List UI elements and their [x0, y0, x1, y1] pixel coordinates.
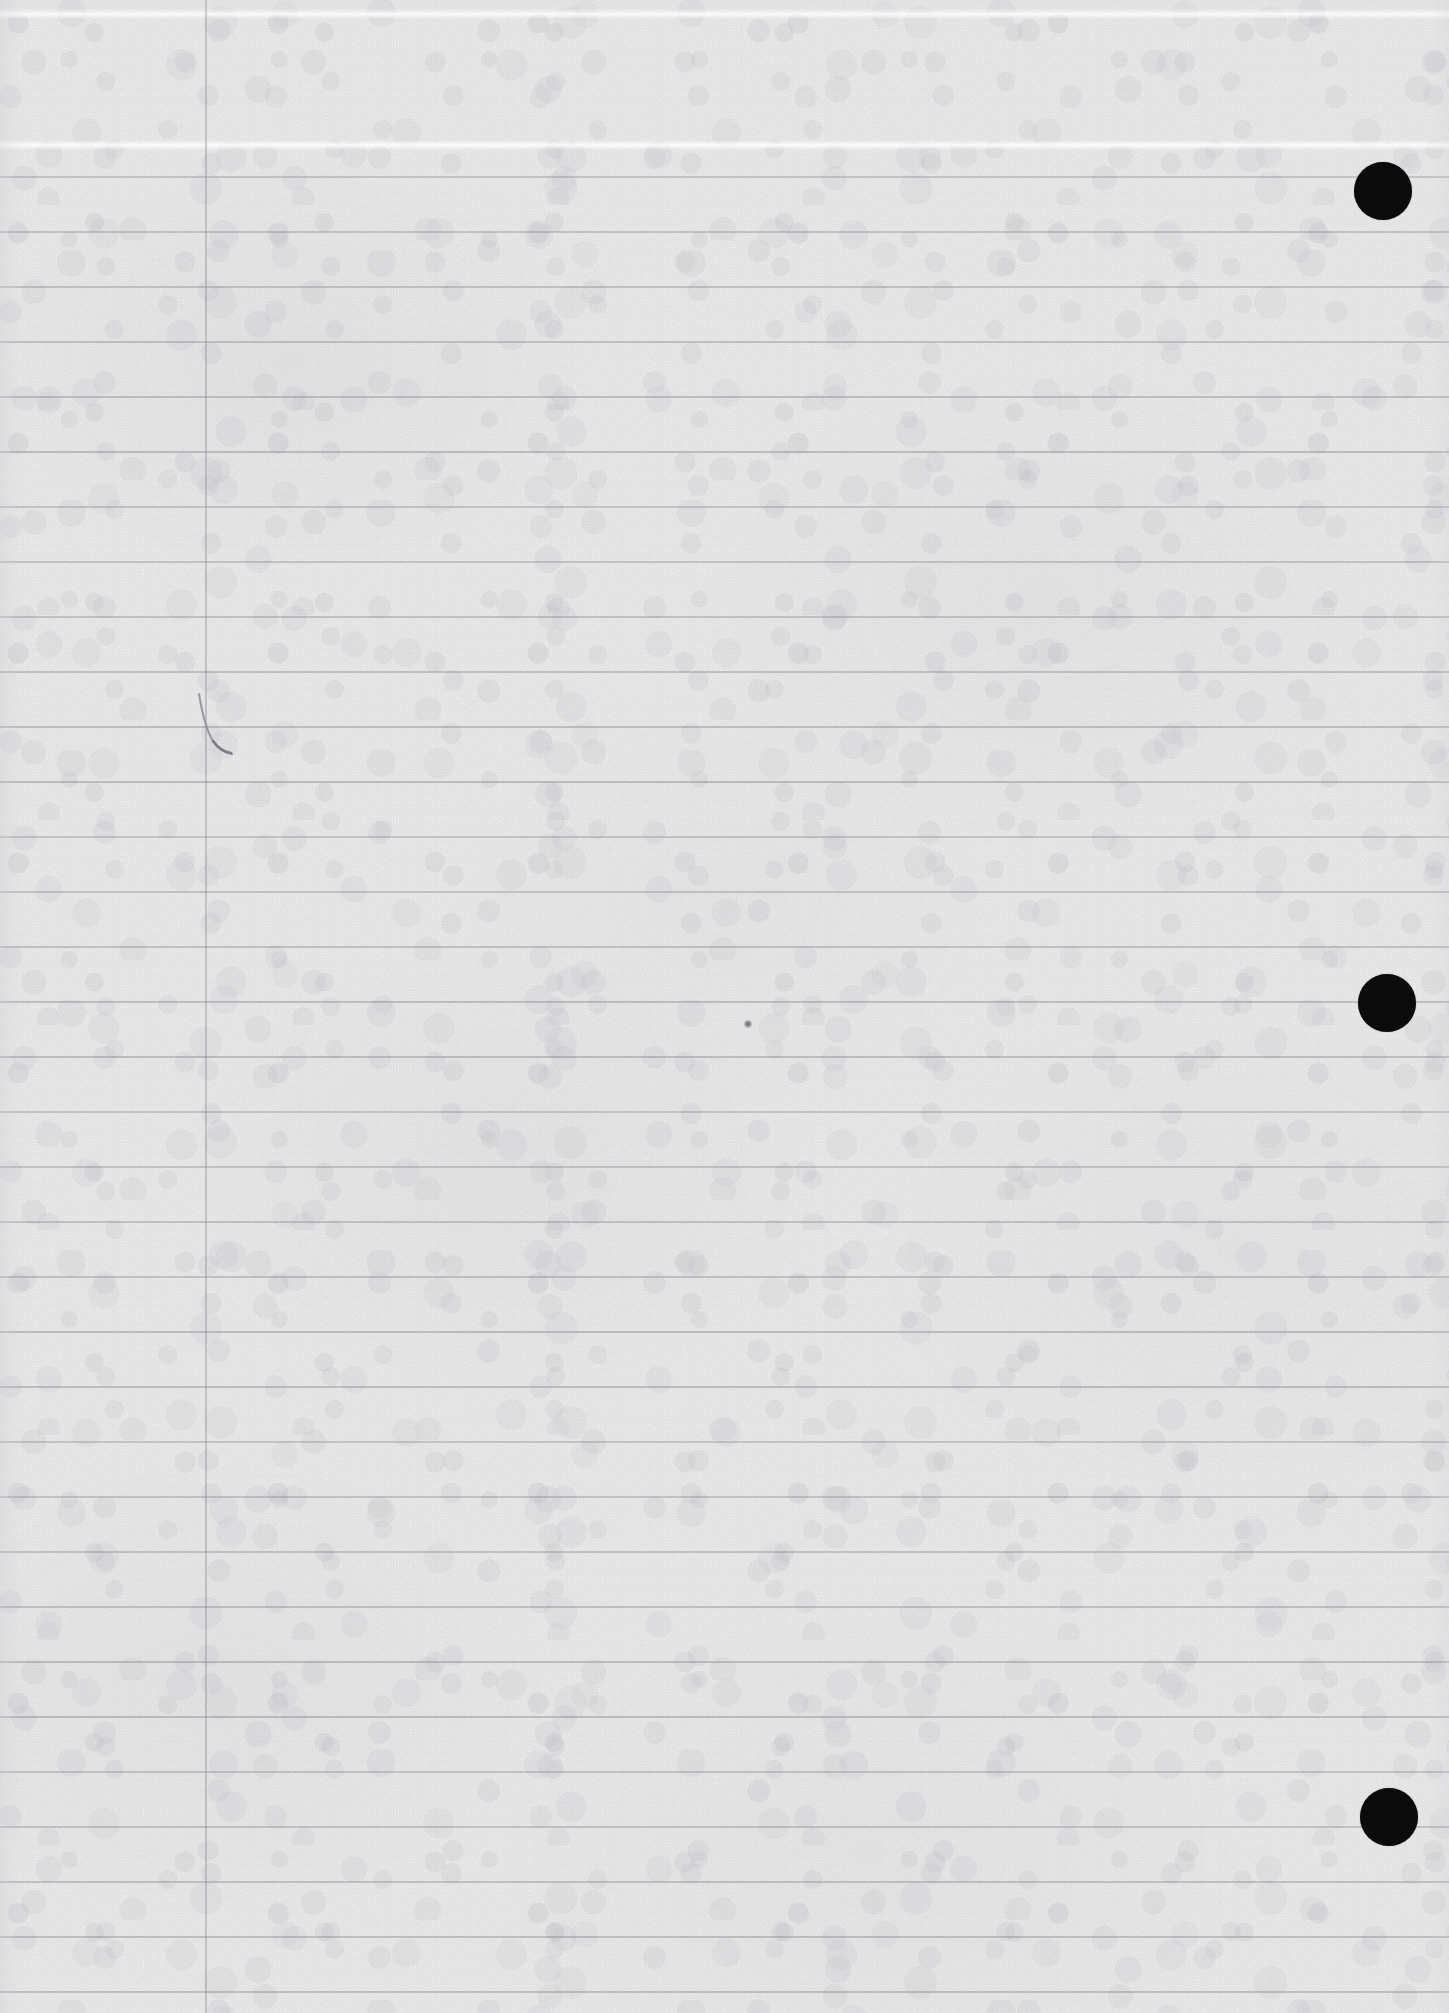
- ruled-line: [0, 1716, 1449, 1718]
- ruled-line: [0, 1056, 1449, 1058]
- ruled-line: [0, 946, 1449, 948]
- ink-speck-center: [744, 1020, 752, 1028]
- paper-speckle-texture: [0, 0, 1449, 2013]
- ruled-line: [0, 1881, 1449, 1883]
- ruled-line: [0, 671, 1449, 673]
- ruled-line: [0, 231, 1449, 233]
- ruled-line: [0, 1606, 1449, 1608]
- scanned-page: [0, 0, 1449, 2013]
- registration-dot-middle: [1358, 974, 1416, 1032]
- ruled-line: [0, 1276, 1449, 1278]
- ruled-line: [0, 1991, 1449, 1993]
- ruled-line: [0, 561, 1449, 563]
- ruled-line: [0, 1496, 1449, 1498]
- ruled-line: [0, 616, 1449, 618]
- ruled-line: [0, 1111, 1449, 1113]
- ruled-line: [0, 1331, 1449, 1333]
- ruled-line: [0, 396, 1449, 398]
- ruled-line: [0, 1166, 1449, 1168]
- ruled-line: [0, 836, 1449, 838]
- ruled-line: [0, 1221, 1449, 1223]
- ruled-line: [0, 506, 1449, 508]
- ruled-line: [0, 1936, 1449, 1938]
- ruled-line: [0, 726, 1449, 728]
- ruled-line: [0, 1386, 1449, 1388]
- ruled-line: [0, 891, 1449, 893]
- ruled-line: [0, 1551, 1449, 1553]
- vertical-margin-rule: [205, 0, 207, 2013]
- registration-dot-top: [1354, 162, 1412, 220]
- ruled-line: [0, 1771, 1449, 1773]
- ruled-line: [0, 451, 1449, 453]
- ruled-line: [0, 1441, 1449, 1443]
- ruled-line: [0, 286, 1449, 288]
- registration-dot-bottom: [1360, 1788, 1418, 1846]
- ruled-line: [0, 1826, 1449, 1828]
- ruled-line: [0, 341, 1449, 343]
- ruled-line: [0, 1661, 1449, 1663]
- ruled-line: [0, 781, 1449, 783]
- ruled-line: [0, 176, 1449, 178]
- ruled-line: [0, 1001, 1449, 1003]
